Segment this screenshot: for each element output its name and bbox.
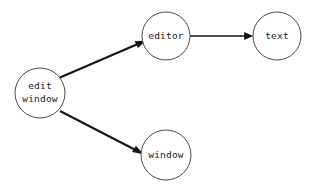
edge-line-edit-window-to-editor [60, 44, 139, 78]
arrow-head-text [244, 32, 253, 40]
node-label-text: text [265, 30, 289, 41]
nodes-layer: edit window editor text window [15, 12, 301, 180]
graph-diagram: edit window editor text window [0, 0, 313, 190]
edge-edit-window-to-editor[interactable] [60, 40, 146, 77]
node-edit-window[interactable]: edit window [15, 68, 65, 118]
node-editor[interactable]: editor [142, 12, 190, 60]
node-window[interactable]: window [141, 130, 191, 180]
node-text[interactable]: text [253, 12, 301, 60]
node-label-window: window [148, 149, 184, 160]
edge-edit-window-to-window[interactable] [60, 111, 144, 154]
node-label-edit-window-line1: edit [28, 80, 52, 91]
edge-line-edit-window-to-window [60, 111, 137, 151]
edge-editor-to-text[interactable] [190, 32, 253, 40]
graph-canvas: edit window editor text window [0, 0, 313, 190]
node-label-editor: editor [148, 30, 184, 41]
node-label-edit-window-line2: window [22, 93, 58, 104]
